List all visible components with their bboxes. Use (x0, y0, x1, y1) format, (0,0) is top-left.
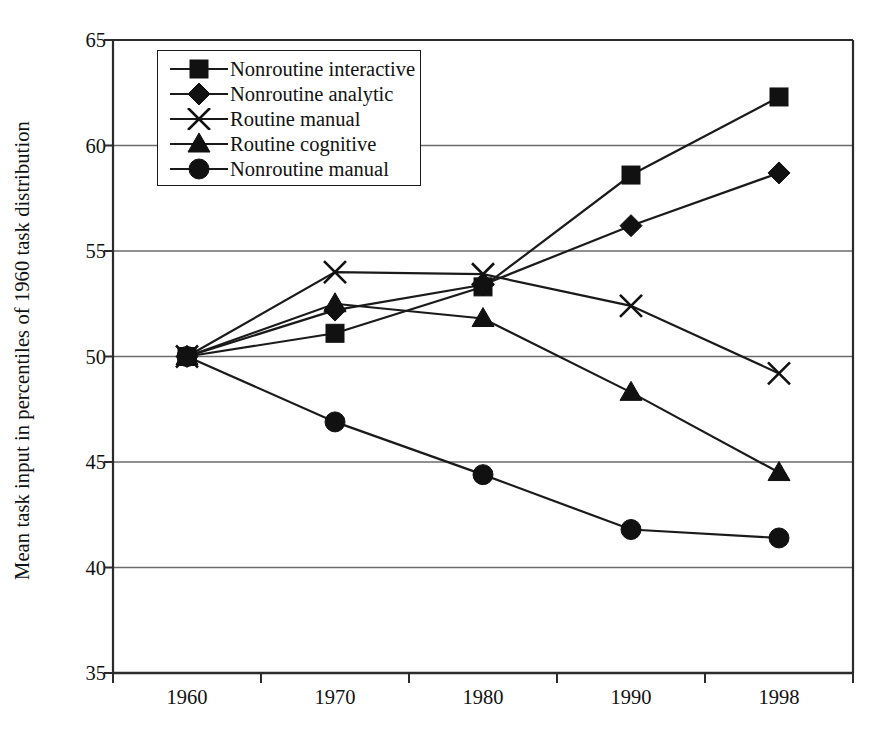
data-point-4-1 (325, 412, 345, 432)
circle-marker-icon (168, 158, 230, 180)
square-marker-icon (168, 58, 230, 80)
data-point-4-0 (177, 347, 197, 367)
legend-item-diamond[interactable]: Nonroutine analytic (158, 81, 420, 106)
diamond-marker-icon (168, 83, 230, 105)
legend-item-label: Nonroutine manual (230, 158, 389, 180)
data-point-4-2 (473, 465, 493, 485)
legend-item-label: Nonroutine analytic (230, 83, 393, 105)
legend-item-square[interactable]: Nonroutine interactive (158, 56, 420, 81)
series-line-4 (187, 357, 779, 538)
data-point-4-4 (769, 528, 789, 548)
chart-legend: Nonroutine interactiveNonroutine analyti… (157, 50, 421, 186)
data-point-1-4 (768, 162, 790, 184)
series-line-1 (187, 173, 779, 357)
triangle-marker-icon (168, 133, 230, 155)
x-tick-label-1960: 1960 (167, 686, 208, 709)
data-point-2-4 (768, 362, 790, 384)
data-point-3-1 (324, 293, 346, 312)
data-point-2-3 (620, 295, 642, 317)
x-tick-label-1990: 1990 (611, 686, 652, 709)
data-point-1-3 (620, 215, 642, 237)
legend-item-label: Nonroutine interactive (230, 58, 415, 80)
data-point-4-3 (621, 520, 641, 540)
legend-item-triangle[interactable]: Routine cognitive (158, 131, 420, 156)
legend-item-label: Routine cognitive (230, 133, 376, 155)
data-point-0-1 (326, 324, 344, 342)
plot-area (0, 0, 885, 739)
data-point-0-3 (622, 166, 640, 184)
x-tick-label-1980: 1980 (463, 686, 504, 709)
x-tick-label-1998: 1998 (759, 686, 800, 709)
legend-item-cross[interactable]: Routine manual (158, 106, 420, 131)
legend-item-label: Routine manual (230, 108, 360, 130)
cross-marker-icon (168, 108, 230, 130)
chart-page: Mean task input in percentiles of 1960 t… (0, 0, 885, 739)
x-tick-label-1970: 1970 (315, 686, 356, 709)
legend-item-circle[interactable]: Nonroutine manual (158, 156, 420, 181)
data-point-0-4 (770, 88, 788, 106)
data-point-3-3 (620, 381, 642, 400)
x-axis-tick-labels: 19601970198019901998 (0, 686, 885, 726)
data-point-3-4 (768, 462, 790, 481)
